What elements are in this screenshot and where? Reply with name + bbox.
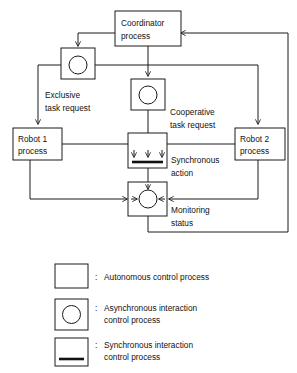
process-diagram: Coordinator process Robot 1 process Robo… (0, 0, 297, 373)
robot1-process-label-line1: Robot 1 (18, 134, 47, 144)
edge-label-cooperative-task-request: Cooperative task request (170, 107, 216, 130)
legend-item-asynchronous-interaction-control-process: : Asynchronous interaction control proce… (55, 299, 198, 330)
legend-label-3-line1: Synchronous interaction (104, 340, 193, 350)
legend-item-synchronous-interaction-control-process: : Synchronous interaction control proces… (55, 338, 193, 366)
legend: : Autonomous control process : Asynchron… (55, 264, 209, 366)
coordinator-process-label-line2: process (121, 31, 150, 41)
legend-label-3-line2: control process (104, 352, 160, 362)
robot2-process-label-line1: Robot 2 (240, 134, 269, 144)
legend-circle-icon (63, 306, 81, 324)
diagram-canvas: Coordinator process Robot 1 process Robo… (0, 0, 297, 373)
robot2-process-label-line2: process (240, 146, 269, 156)
wire-robot1-to-monitoring-status (30, 160, 127, 199)
cooperative-task-request-line2: task request (170, 120, 216, 130)
node-robot1-process[interactable]: Robot 1 process (13, 128, 62, 160)
robot1-process-label-line2: process (18, 146, 47, 156)
legend-separator-3: : (95, 340, 97, 350)
cooperative-async-circle-icon (139, 86, 157, 104)
wire-robot2-to-monitoring-status (169, 160, 258, 199)
edge-label-monitoring-status: Monitoring status (171, 205, 210, 228)
exclusive-task-request-line1: Exclusive (45, 90, 80, 100)
edge-label-synchronous-action: Synchronous action (171, 155, 219, 178)
legend-separator-2: : (95, 303, 97, 313)
node-robot2-process[interactable]: Robot 2 process (235, 128, 285, 160)
synchronous-action-line1: Synchronous (171, 155, 219, 165)
cooperative-task-request-line1: Cooperative (170, 107, 215, 117)
node-exclusive-async-control-process[interactable] (61, 48, 95, 79)
monitoring-status-circle-icon (139, 190, 157, 208)
legend-symbol-box-with-bar (55, 338, 88, 366)
node-cooperative-async-control-process[interactable] (131, 79, 165, 110)
wire-coordinator-to-exclusive-async (78, 33, 115, 46)
legend-label-2-line2: control process (104, 315, 160, 325)
monitoring-status-line1: Monitoring (171, 205, 210, 215)
exclusive-task-request-line2: task request (45, 103, 91, 113)
legend-label-2-line1: Asynchronous interaction (104, 303, 198, 313)
legend-item-autonomous-control-process: : Autonomous control process (55, 264, 209, 288)
edge-label-exclusive-task-request: Exclusive task request (45, 90, 91, 113)
synchronous-action-line2: action (171, 168, 194, 178)
monitoring-status-line2: status (171, 218, 193, 228)
node-coordinator-process[interactable]: Coordinator process (115, 11, 181, 46)
wire-robot2-to-synchronous-action (162, 144, 235, 152)
legend-separator-1: : (95, 272, 97, 282)
wire-robot1-to-synchronous-action (62, 144, 134, 152)
coordinator-process-label-line1: Coordinator (121, 18, 165, 28)
legend-symbol-empty-box (55, 264, 88, 288)
legend-label-1-line1: Autonomous control process (104, 272, 209, 282)
node-monitoring-status-control-process[interactable] (128, 182, 167, 216)
node-synchronous-action-control-process[interactable] (128, 133, 167, 168)
exclusive-async-circle-icon (69, 56, 87, 74)
